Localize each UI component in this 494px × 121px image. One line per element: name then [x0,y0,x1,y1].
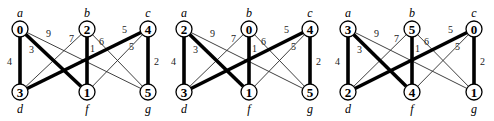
node-name: d [17,102,24,116]
edge-weight-c-g: 2 [154,56,159,67]
node-name: f [410,102,415,116]
node-number: 0 [17,22,24,37]
node-name: d [181,102,188,116]
edge-weight-b-f: 1 [90,43,95,54]
node-name: c [145,6,151,20]
node-g: 5g [302,84,318,116]
node-number: 1 [471,85,478,100]
diagram-stage: 4397165520a2b4c3d1f5g4397165522a0b4c3d1f… [0,0,494,121]
edge-weight-c-f: 5 [455,41,460,52]
edge-weight-b-f: 1 [252,43,257,54]
node-d: 2d [340,84,356,116]
edge-weight-c-d: 5 [448,24,453,35]
node-name: g [471,102,477,116]
node-number: 0 [246,22,253,37]
edge-weight-b-f: 1 [415,43,420,54]
node-number: 2 [345,85,352,100]
node-number: 5 [145,85,152,100]
node-name: a [345,6,351,20]
edge-weight-b-g: 6 [261,36,266,47]
edge-weight-a-g: 9 [46,28,51,39]
graph-1: 4397165520a2b4c3d1f5g [7,6,159,116]
edge-weight-b-d: 7 [231,33,236,44]
edge-weight-c-f: 5 [291,41,296,52]
edge-weight-b-d: 7 [69,33,74,44]
node-f: 1f [79,84,95,116]
edge-weight-a-f: 3 [193,44,198,55]
edge-weight-c-g: 2 [480,56,485,67]
node-name: g [307,102,313,116]
node-number: 4 [409,85,416,100]
edge-weight-c-g: 2 [316,56,321,67]
graph-3: 4397165523a5b0c2d4f1g [335,6,485,116]
edge-weight-a-f: 3 [29,44,34,55]
node-name: b [84,6,90,20]
node-number: 3 [17,85,24,100]
node-name: a [181,6,187,20]
node-number: 3 [345,22,352,37]
node-number: 2 [181,22,188,37]
node-f: 1f [241,84,257,116]
node-b: 0b [241,6,257,37]
node-g: 5g [140,84,156,116]
node-name: a [17,6,23,20]
node-number: 4 [307,22,314,37]
edge-weight-b-d: 7 [394,33,399,44]
edge-weight-a-d: 4 [7,56,12,67]
node-c: 0c [466,6,482,37]
node-name: f [85,102,90,116]
node-number: 1 [84,85,91,100]
node-number: 0 [471,22,478,37]
edge-weight-a-d: 4 [335,56,340,67]
node-a: 2a [176,6,192,37]
node-name: b [409,6,415,20]
edge-weight-a-f: 3 [357,44,362,55]
edge-weight-a-g: 9 [374,28,379,39]
edge-weight-c-d: 5 [284,24,289,35]
graph-diagram: 4397165520a2b4c3d1f5g4397165522a0b4c3d1f… [0,0,494,121]
node-number: 4 [145,22,152,37]
node-name: c [307,6,313,20]
node-number: 3 [181,85,188,100]
node-number: 1 [246,85,253,100]
graph-2: 4397165522a0b4c3d1f5g [171,6,321,116]
node-number: 2 [84,22,91,37]
node-c: 4c [140,6,156,37]
node-name: g [145,102,151,116]
edge-weight-a-g: 9 [210,28,215,39]
node-a: 0a [12,6,28,37]
node-g: 1g [466,84,482,116]
node-b: 2b [79,6,95,37]
node-name: f [247,102,252,116]
edge-weight-a-d: 4 [171,56,176,67]
edge-weight-c-d: 5 [122,24,127,35]
node-d: 3d [12,84,28,116]
node-d: 3d [176,84,192,116]
node-name: c [471,6,477,20]
edge-weight-b-g: 6 [99,36,104,47]
edge-weight-c-f: 5 [129,41,134,52]
node-number: 5 [409,22,416,37]
edge-weight-b-g: 6 [424,36,429,47]
node-c: 4c [302,6,318,37]
node-name: d [345,102,352,116]
node-b: 5b [404,6,420,37]
node-name: b [246,6,252,20]
node-f: 4f [404,84,420,116]
node-a: 3a [340,6,356,37]
node-number: 5 [307,85,314,100]
